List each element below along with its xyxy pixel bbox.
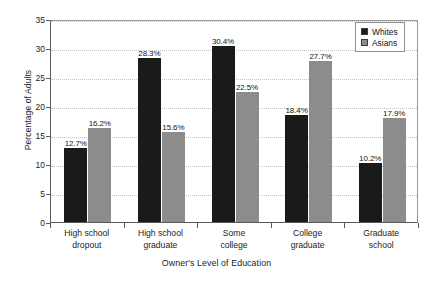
bar-value-label: 10.2% [359,154,381,163]
legend-label: Whites [372,27,398,37]
bar-asians[interactable] [383,118,406,222]
x-tick-label-line: Some [220,228,247,240]
x-tick-mark [50,223,51,228]
bar-whites[interactable] [359,163,382,222]
bar-whites[interactable] [212,46,235,222]
legend-swatch-whites-icon [361,28,368,35]
bar-value-label: 17.9% [383,109,405,118]
legend: WhitesAsians [355,22,405,52]
x-tick-label: Collegegraduate [291,228,325,251]
x-tick-label-line: High school [138,228,183,240]
y-tick-label: 10 [19,160,45,170]
bar-asians[interactable] [236,92,259,223]
x-tick-label-line: College [291,228,325,240]
x-tick-label-line: High school [64,228,109,240]
bar-value-label: 22.5% [236,83,258,92]
bar-chart: Percentage of Adults 05101520253035 12.7… [0,0,433,282]
bar-value-label: 28.3% [138,49,160,58]
bar-whites[interactable] [285,115,308,222]
bar-value-label: 30.4% [212,37,234,46]
y-tick-label: 5 [19,189,45,199]
legend-item[interactable]: Asians [361,37,398,48]
y-tick-label: 30 [19,44,45,54]
bar-asians[interactable] [162,132,185,222]
y-tick-label: 35 [19,15,45,25]
x-tick-mark [271,223,272,228]
x-tick-label-line: graduate [291,240,325,252]
bar-whites[interactable] [138,58,161,222]
y-tick-label: 15 [19,131,45,141]
bar-value-label: 12.7% [65,139,87,148]
x-tick-label-line: college [220,240,247,252]
x-tick-label-line: school [363,240,399,252]
x-tick-label-line: graduate [138,240,183,252]
x-tick-mark [197,223,198,228]
x-tick-mark [344,223,345,228]
x-tick-label: Graduateschool [363,228,399,251]
x-tick-label: High schooldropout [64,228,109,251]
y-tick-label: 20 [19,102,45,112]
y-tick-label: 25 [19,73,45,83]
x-tick-mark [124,223,125,228]
y-tick-label: 0 [19,218,45,228]
legend-swatch-asians-icon [361,39,368,46]
bar-asians[interactable] [309,61,332,222]
bar-value-label: 16.2% [89,119,111,128]
bar-value-label: 27.7% [310,52,332,61]
bar-value-label: 15.6% [162,123,184,132]
legend-label: Asians [372,38,397,48]
x-axis-title: Owner's Level of Education [0,258,433,268]
bar-value-label: 18.4% [286,106,308,115]
bar-asians[interactable] [88,128,111,222]
x-tick-label: Somecollege [220,228,247,251]
x-tick-mark [418,223,419,228]
x-tick-label-line: dropout [64,240,109,252]
x-tick-label-line: Graduate [363,228,399,240]
x-tick-label: High schoolgraduate [138,228,183,251]
bar-whites[interactable] [64,148,87,222]
legend-item[interactable]: Whites [361,26,398,37]
